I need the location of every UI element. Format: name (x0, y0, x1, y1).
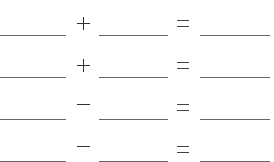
blank-result[interactable] (200, 161, 270, 162)
equation-row-4: − = (0, 126, 274, 162)
equation-row-1: + = (0, 0, 274, 42)
equation-row-3: − = (0, 84, 274, 126)
blank-operand-1[interactable] (0, 35, 66, 36)
blank-operand-1[interactable] (0, 119, 66, 120)
blank-operand-1[interactable] (0, 161, 66, 162)
blank-operand-2[interactable] (99, 119, 168, 120)
plus-icon: + (77, 17, 90, 30)
blank-operand-2[interactable] (99, 161, 168, 162)
equals-icon: = (177, 104, 189, 111)
equation-row-2: + = (0, 42, 274, 84)
blank-operand-2[interactable] (99, 35, 168, 36)
blank-operand-2[interactable] (99, 77, 168, 78)
blank-result[interactable] (200, 119, 270, 120)
blank-operand-1[interactable] (0, 77, 66, 78)
equals-icon: = (177, 62, 189, 69)
minus-icon: − (77, 146, 90, 147)
blank-result[interactable] (200, 77, 270, 78)
blank-result[interactable] (200, 35, 270, 36)
equals-icon: = (177, 20, 189, 27)
equals-icon: = (177, 146, 189, 153)
minus-icon: − (77, 104, 90, 105)
plus-icon: + (77, 59, 90, 72)
